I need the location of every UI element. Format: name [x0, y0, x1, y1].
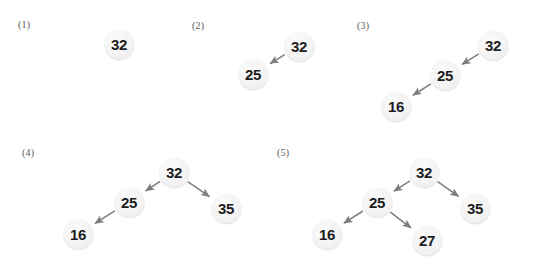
bst-insertion-figure: 323225322516322535163225351627 (1)(2)(3)…: [0, 0, 533, 270]
step-label-3: (3): [357, 21, 369, 31]
step-label-1: (1): [18, 20, 30, 30]
tree-node-value: 32: [166, 164, 182, 179]
step-label-2: (2): [192, 21, 204, 31]
tree-node-value: 25: [121, 194, 137, 209]
tree-node: 25: [115, 188, 144, 217]
tree-node: 32: [105, 30, 134, 59]
tree-node: 25: [431, 61, 460, 90]
step-label-4: (4): [22, 148, 34, 158]
step-label-5: (5): [277, 148, 289, 158]
tree-node: 32: [285, 32, 314, 61]
tree-node-value: 25: [369, 194, 385, 209]
tree-edge-32-to-35: [188, 182, 210, 197]
tree-node: 16: [64, 220, 93, 249]
tree-node: 16: [313, 220, 342, 249]
tree-node-value: 32: [111, 36, 127, 51]
tree-node-value: 16: [388, 98, 404, 113]
tree-edge-32-to-25: [146, 181, 160, 191]
tree-edge-25-to-27: [390, 212, 411, 228]
tree-node: 35: [461, 194, 490, 223]
tree-node-value: 25: [245, 66, 261, 81]
tree-node-value: 35: [467, 200, 483, 215]
tree-edge-32-to-25: [394, 181, 410, 191]
tree-node: 32: [479, 31, 508, 60]
tree-node-value: 16: [70, 226, 86, 241]
tree-node: 25: [363, 188, 392, 217]
tree-node-value: 35: [218, 200, 234, 215]
tree-edge-25-to-16: [413, 84, 431, 95]
tree-node-value: 32: [485, 37, 501, 52]
tree-node: 32: [160, 158, 189, 187]
tree-edge-25-to-16: [95, 211, 115, 223]
tree-node: 35: [212, 194, 241, 223]
tree-edge-32-to-25: [462, 54, 479, 65]
tree-edge-25-to-16: [344, 211, 363, 223]
tree-edge-32-to-35: [438, 182, 459, 197]
tree-node: 27: [413, 226, 442, 255]
tree-node-value: 16: [319, 226, 335, 241]
tree-node: 16: [382, 92, 411, 121]
tree-node-value: 32: [291, 38, 307, 53]
tree-edge-32-to-25: [270, 55, 285, 64]
tree-node: 25: [239, 60, 268, 89]
tree-node-value: 32: [416, 164, 432, 179]
tree-node-value: 27: [419, 232, 435, 247]
tree-node-value: 25: [437, 67, 453, 82]
tree-node: 32: [410, 158, 439, 187]
